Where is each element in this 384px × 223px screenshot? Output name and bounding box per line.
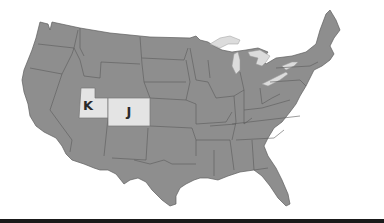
bottom-divider-bar [0, 219, 384, 223]
us-map: K J [0, 0, 384, 223]
us-landmass [22, 10, 340, 206]
label-j: J [126, 104, 132, 119]
label-k: K [83, 98, 94, 113]
